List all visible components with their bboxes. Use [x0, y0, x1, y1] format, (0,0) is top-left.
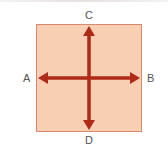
- arrowhead-down-icon: [83, 120, 95, 130]
- label-bottom: D: [85, 135, 93, 146]
- arrowhead-right-icon: [130, 72, 140, 84]
- label-left: A: [23, 73, 30, 84]
- arrowhead-up-icon: [83, 26, 95, 36]
- arrowhead-left-icon: [38, 72, 48, 84]
- label-right: B: [147, 73, 154, 84]
- label-top: C: [85, 10, 93, 21]
